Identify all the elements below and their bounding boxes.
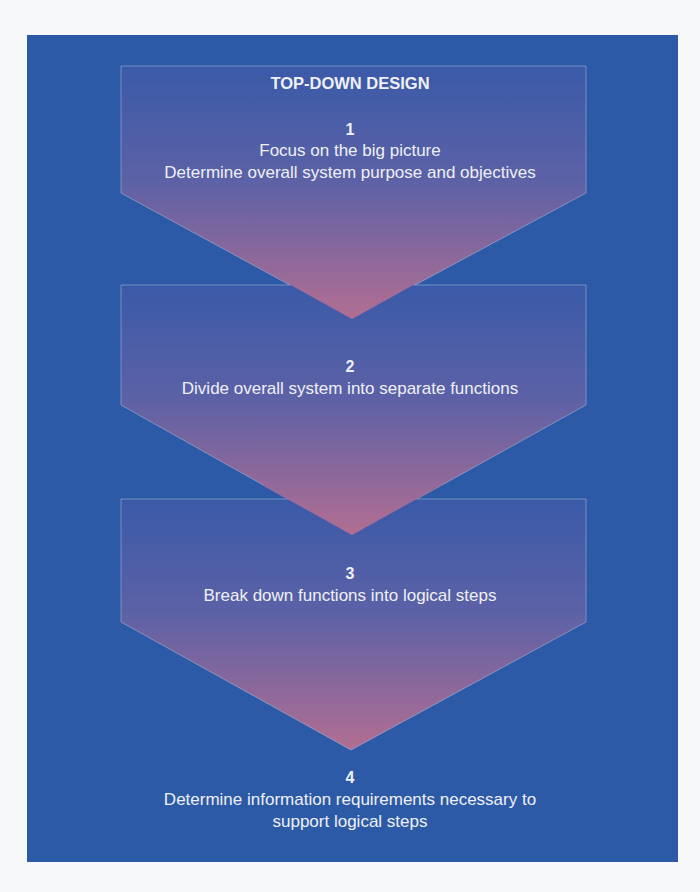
step-3-line-1: Break down functions into logical steps	[100, 585, 600, 606]
step-1-line-2: Determine overall system purpose and obj…	[100, 162, 600, 183]
step-1-line-1: Focus on the big picture	[100, 140, 600, 161]
step-4-line-1: Determine information requirements neces…	[100, 789, 600, 810]
step-2-number: 2	[100, 356, 600, 377]
step-3-number: 3	[100, 563, 600, 584]
diagram-title: TOP-DOWN DESIGN	[100, 73, 600, 94]
step-4-line-2: support logical steps	[100, 811, 600, 832]
step-2-line-1: Divide overall system into separate func…	[100, 378, 600, 399]
step-4-number: 4	[100, 767, 600, 788]
step-3-chevron	[121, 499, 586, 750]
step-1-number: 1	[100, 119, 600, 140]
